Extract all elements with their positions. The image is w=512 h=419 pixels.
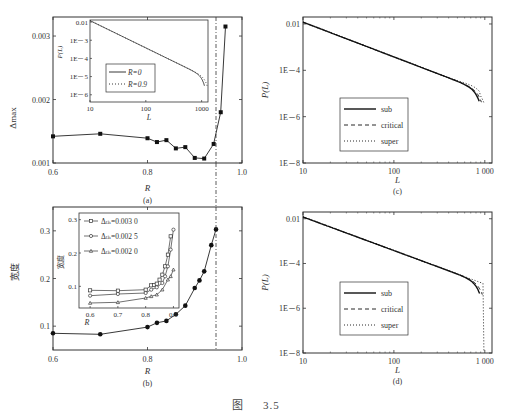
panel-b-inset-data-point [116,289,119,292]
panel-a-ytick-label: 0.002 [32,96,50,105]
panel-b-inset-xtick-label: 0.7 [114,311,123,319]
panel-a-inset-xtick-label: 100 [141,105,152,113]
panel-a-ylabel: Δmax [8,107,18,129]
panel-a-inset-xtick-label: 1000 [195,105,210,113]
panel-a-data-point [98,132,102,136]
panel-b-inset-ylabel: 宽度 [56,255,65,269]
panel-b-inset-data-point [150,288,153,291]
panel-c-panel-label: (c) [393,187,402,196]
panel-b: 0.60.81.00.10.20.3R(b)宽度0.60.70.80.90.10… [9,207,247,388]
panel-d-ytick-label: 1E－6 [279,304,300,313]
panel-b-inset-data-point [172,228,175,231]
panel-c-xtick-label: 10 [299,167,307,176]
panel-b-inset-legend-label: Δₜₕ=0.002 5 [101,232,138,241]
panel-c-series-sub [303,22,479,101]
panel-a-data-point [219,110,223,114]
panel-a-label: (a) [143,196,152,205]
panel-b-data-point [183,303,188,308]
panel-b-inset-data-point [116,292,119,295]
panel-c-ytick-label: 0.01 [286,20,300,29]
panel-b-xlabel: R [144,366,151,376]
panel-a-inset-ytick-label: 1E－5 [70,73,89,81]
panel-b-inset-ytick-label: 0.1 [68,283,77,291]
panel-b-inset-legend-label: Δₜₕ=0.002 0 [101,247,138,256]
panel-b-inset-data-point [155,282,158,285]
panel-c: 101001 0000.011E－41E－61E－8L(c)P(L)subcri… [260,17,494,196]
panel-a-data-point [155,140,159,144]
panel-a-data-point [193,156,197,160]
panel-d-xtick-label: 1 000 [476,357,494,366]
panel-d-ytick-label: 0.01 [286,215,300,224]
panel-b-ytick-label: 0.1 [40,322,50,331]
panel-b-inset-xtick-label: 0.8 [141,311,150,319]
panel-a-xtick-label: 0.6 [48,168,58,177]
panel-b-data-point [98,332,103,337]
panel-a-data-point [164,138,168,142]
panel-a-xtick-label: 0.8 [143,168,153,177]
caption-prefix: 图 [232,399,244,411]
panel-d-ylabel: P(L) [260,274,270,292]
panel-b-inset-ytick-label: 0.3 [68,216,77,224]
panel-b-data-point [51,331,56,336]
panel-b-inset-legend-marker [89,219,92,222]
panel-b-xtick-label: 0.8 [143,355,153,364]
panel-c-ytick-label: 1E－6 [279,113,300,122]
panel-a-data-point [183,145,187,149]
panel-d-ytick-label: 1E－4 [279,259,300,268]
panel-d: 101001 0000.011E－41E－61E－8L(d)P(L)subcri… [260,212,494,386]
panel-b-ytick-label: 0.2 [40,275,50,284]
panel-b-data-point [192,286,197,291]
panel-d-legend-label: super [381,321,399,330]
panel-a-inset-ytick-label: 1E－4 [70,55,89,63]
panel-b-inset-data-point [169,248,172,251]
panel-c-series-super [303,22,484,103]
panel-b-data-point [145,325,150,330]
figure-canvas: 0.60.81.00.0010.0020.003R(a)Δmax10100100… [0,0,512,419]
panel-a-inset-xtick-label: 10 [87,105,95,113]
panel-b-inset-data-point [161,281,164,284]
panel-b-data-point [202,269,207,274]
panel-b-inset-legend-marker [89,234,92,237]
panel-b-data-point [197,278,202,283]
panel-a-data-point [202,157,206,161]
panel-c-xlabel: L [394,175,400,185]
panel-a-inset-legend-label: R=0.9 [127,80,147,89]
panel-a-ytick-label: 0.001 [32,159,50,168]
panel-a-inset-ytick-label: 1E－6 [70,91,89,99]
panel-a-ytick-label: 0.003 [32,32,50,41]
panel-b-inset-data-point [89,294,92,297]
panel-a-inset-ytick-label: 1E－3 [70,37,89,45]
panel-c-legend-label: super [381,137,399,146]
panel-d-xtick-label: 10 [299,357,307,366]
panel-d-ytick-label: 1E－8 [279,349,300,358]
panel-c-legend-label: sub [381,105,392,114]
panel-b-inset-data-point [144,288,147,291]
panel-a-data-point [223,25,227,29]
panel-a-xlabel: R [144,183,151,193]
panel-b-data-point [164,319,169,324]
panel-b-inset-data-point [166,265,169,268]
panel-b-ytick-label: 0.3 [40,227,50,236]
panel-b-inset-data-point [158,278,161,281]
panel-b-ylabel: 宽度 [9,263,20,281]
panel-b-xtick-label: 1.0 [237,355,247,364]
panel-c-ytick-label: 1E－8 [279,159,300,168]
panel-a-inset-xlabel: L [146,113,152,122]
panel-a-inset-ylabel: P(L) [56,45,64,60]
panel-a-data-point [51,134,55,138]
panel-b-inset-xtick-label: 0.9 [169,311,178,319]
panel-a-inset-ytick-label: 0.01 [76,19,89,27]
panel-b-inset-ytick-label: 0.2 [68,250,77,258]
panel-b-data-point [155,321,160,326]
panel-b-inset-data-point [155,286,158,289]
panel-d-legend-label: critical [381,305,404,314]
panel-a-data-point [212,142,216,146]
panel-a-data-point [174,146,178,150]
panel-b-inset-legend-label: Δₜₕ=0.003 0 [101,217,138,226]
panel-b-label: (b) [143,379,153,388]
panel-d-legend-label: sub [381,289,392,298]
panel-b-inset-xlabel: R [84,318,90,327]
caption-number: 3.5 [263,399,280,411]
figure-caption: 图 3.5 [0,396,512,412]
panel-a-data-point [146,136,150,140]
